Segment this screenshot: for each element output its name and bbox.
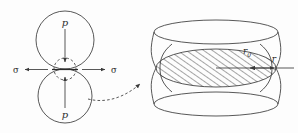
hyperboloid-left-silhouette — [151, 32, 156, 104]
top-pressure-label: p — [62, 17, 69, 28]
magnify-connector-arrow — [88, 84, 140, 101]
hyperboloid-top-ellipse — [154, 20, 278, 44]
neck-hatching — [150, 44, 286, 96]
neck-radius-subscript: 0 — [247, 51, 251, 58]
bottom-pressure-label: p — [62, 109, 69, 120]
two-circles-contact-diagram: p p σ σ — [13, 11, 117, 123]
right-stress-label: σ — [111, 65, 117, 75]
hyperboloid-bottom-ellipse — [154, 92, 278, 116]
figure-canvas: p p σ σ r0 r — [0, 0, 298, 133]
external-radius-label: r — [272, 54, 277, 64]
hyperboloid-neck-diagram: r0 r — [150, 20, 294, 116]
neck-radius-label: r0 — [243, 46, 251, 58]
scientific-figure: p p σ σ r0 r — [0, 0, 298, 133]
left-stress-label: σ — [13, 65, 19, 75]
